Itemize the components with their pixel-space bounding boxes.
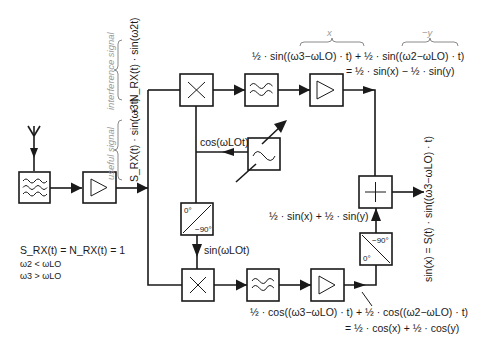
- input-signal-label: S_RX(t) · sin(ω3t) + N_RX(t) · sin(ω2t): [128, 17, 140, 182]
- leader-line: [362, 292, 372, 306]
- svg-text:useful signal: useful signal: [105, 126, 116, 180]
- summer-block: [359, 176, 392, 208]
- top-mixer-block: [180, 74, 213, 106]
- bottom-mixer-block: [182, 269, 214, 301]
- svg-text:N_RX(t) · sin(ω2t): N_RX(t) · sin(ω2t): [128, 17, 140, 102]
- local-oscillator-block: [236, 120, 287, 182]
- antenna-icon: [28, 126, 40, 171]
- signal-annotations: useful signal interference signal: [105, 31, 116, 180]
- mid-equation: ½ · sin(x) + ½ · sin(y): [269, 210, 368, 222]
- lo-phase-splitter-block: 0° −90°: [181, 203, 213, 235]
- bottom-equation-line2: = ½ · cos(x) + ½ · cos(y): [345, 322, 459, 334]
- output-phase-shifter-block: −90° 0°: [360, 233, 392, 265]
- lo-cos-label: cos(ωLOt): [200, 136, 248, 148]
- svg-text:+: +: [128, 108, 140, 114]
- brace-label-x: x: [326, 27, 333, 38]
- signal-wire: [343, 90, 375, 176]
- brace-label-y: −y: [422, 27, 434, 38]
- bottom-lowpass-filter-block: [247, 269, 279, 301]
- output-equation: sin(x) = S(t) · sin((ω3−ωLO) · t): [422, 136, 434, 282]
- brace-y: [402, 38, 458, 46]
- block-diagram: S_RX(t) · sin(ω3t) + N_RX(t) · sin(ω2t) …: [0, 0, 478, 349]
- svg-text:−90°: −90°: [195, 225, 212, 234]
- svg-text:0°: 0°: [184, 206, 192, 215]
- svg-text:−90°: −90°: [372, 236, 389, 245]
- top-amplifier-block: [310, 74, 343, 106]
- bottom-amplifier-block: [311, 269, 344, 301]
- top-equation-line1: ½ · sin((ω3−ωLO) · t) + ½ · sin((ω2−ωLO)…: [252, 50, 464, 62]
- svg-text:0°: 0°: [363, 254, 371, 263]
- top-lowpass-filter-block: [245, 74, 278, 106]
- top-equation-line2: = ½ · sin(x) − ½ · sin(y): [346, 65, 455, 77]
- brace-x: [300, 38, 364, 46]
- condition-omega2: ω2 < ωLO: [20, 259, 61, 269]
- condition-omega3: ω3 > ωLO: [20, 271, 61, 281]
- bandpass-filter-block: [19, 172, 50, 203]
- signal-wire: [344, 265, 376, 285]
- condition-amplitudes: S_RX(t) = N_RX(t) = 1: [20, 244, 125, 256]
- bottom-equation-line1: ½ · cos((ω3−ωLO) · t) + ½ · cos((ω2−ωLO)…: [250, 306, 468, 318]
- lo-sin-label: sin(ωLOt): [204, 244, 250, 256]
- svg-text:interference signal: interference signal: [105, 31, 116, 110]
- split-wire: [148, 90, 182, 285]
